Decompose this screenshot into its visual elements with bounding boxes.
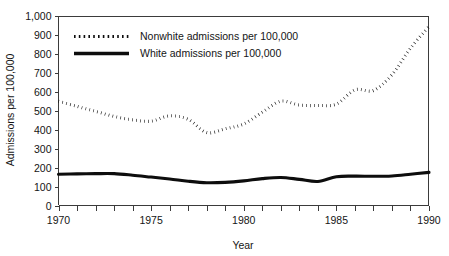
y-tick-label: 900	[34, 29, 52, 41]
y-tick-label: 0	[46, 200, 52, 212]
chart-figure: 01002003004005006007008009001,000 197019…	[0, 0, 449, 256]
y-tick-label: 200	[34, 162, 52, 174]
legend-label-white: White admissions per 100,000	[140, 47, 281, 59]
y-tick-label: 500	[34, 105, 52, 117]
y-tick-label: 700	[34, 67, 52, 79]
x-tick-label: 1975	[139, 214, 163, 226]
legend-label-nonwhite: Nonwhite admissions per 100,000	[140, 30, 298, 42]
y-tick-label: 400	[34, 124, 52, 136]
x-tick-label: 1990	[417, 214, 441, 226]
y-tick-label: 1,000	[25, 10, 51, 22]
x-tick-label: 1980	[232, 214, 256, 226]
x-axis-title: Year	[232, 239, 254, 251]
y-tick-label: 600	[34, 86, 52, 98]
y-axis-title: Admissions per 100,000	[4, 54, 16, 167]
y-tick-label: 300	[34, 143, 52, 155]
y-tick-label: 100	[34, 181, 52, 193]
x-axis-ticks	[60, 206, 430, 211]
x-tick-label: 1985	[325, 214, 349, 226]
y-tick-label: 800	[34, 48, 52, 60]
x-tick-label: 1970	[47, 214, 71, 226]
line-chart: 01002003004005006007008009001,000 197019…	[0, 0, 449, 256]
